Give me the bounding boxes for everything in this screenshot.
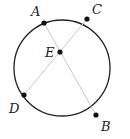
circle-chords-diagram: A C E D B xyxy=(0,0,130,139)
point-b xyxy=(93,112,98,117)
label-a: A xyxy=(30,4,40,19)
point-c xyxy=(84,16,89,21)
circle xyxy=(14,20,110,116)
chord-ab xyxy=(44,23,96,115)
label-d: D xyxy=(8,101,20,116)
label-e: E xyxy=(44,45,55,60)
point-a xyxy=(41,20,46,25)
label-b: B xyxy=(100,119,111,134)
label-c: C xyxy=(92,2,102,17)
chord-cd xyxy=(24,19,87,95)
point-e xyxy=(57,49,62,54)
point-d xyxy=(21,92,26,97)
